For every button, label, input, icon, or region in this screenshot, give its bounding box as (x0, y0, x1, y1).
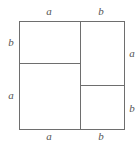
label-left-upper-segment: b (6, 37, 16, 48)
square-bottom-edge (19, 129, 125, 130)
left-horizontal-divider-line (19, 63, 81, 64)
square-right-edge (124, 21, 125, 130)
label-left-lower-segment: a (6, 90, 16, 101)
label-right-upper-segment: a (127, 48, 137, 59)
square-left-edge (19, 21, 20, 130)
square-dissection-figure: a b a b b a a b (0, 0, 138, 145)
label-top-right-segment: b (96, 6, 106, 17)
label-top-left-segment: a (44, 6, 54, 17)
vertical-divider-line (80, 21, 81, 130)
label-bottom-left-segment: a (44, 131, 54, 142)
right-horizontal-divider-line (80, 85, 125, 86)
label-bottom-right-segment: b (96, 131, 106, 142)
label-right-lower-segment: b (127, 103, 137, 114)
square-top-edge (19, 21, 125, 22)
